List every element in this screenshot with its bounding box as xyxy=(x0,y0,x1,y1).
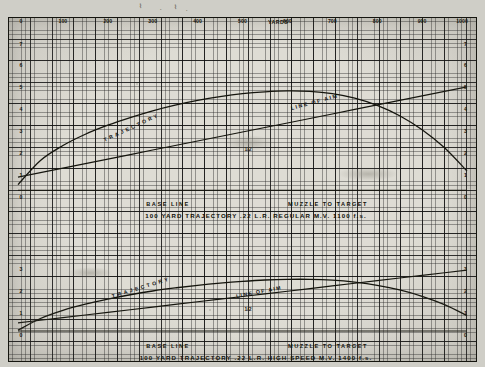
scan-speck xyxy=(136,83,138,85)
upper-chart-svg xyxy=(8,17,477,207)
scan-smudge xyxy=(223,135,275,151)
scan-artifact-mark: ⌇ xyxy=(139,2,142,9)
upper-chart-title: 100 YARD TRAJECTORY .22 L.R. REGULAR M.V… xyxy=(145,212,366,219)
upper-base-line-caption: BASE LINE xyxy=(146,201,189,207)
lower-chart-panel: TRAJECTORY LINE OF AIM 1/2 xyxy=(8,245,477,349)
scan-smudge xyxy=(338,167,398,181)
lower-muzzle-to-target-caption: MUZZLE TO TARGET xyxy=(288,343,368,349)
scan-artifact-mark: ⌇ xyxy=(174,3,177,10)
upper-chart-panel: TRAJECTORY LINE OF AIM 1/2 xyxy=(8,17,477,207)
lower-chart-title: 100 YARD TRAJECTORY .22 L.R. HIGH SPEED … xyxy=(140,354,372,361)
screenshot-root: ⌇ · ⌇ · 01002003004005006007008009001000… xyxy=(0,0,485,367)
chart-sheet: 01002003004005006007008009001000 YARDS 7… xyxy=(8,17,477,362)
scan-smudge xyxy=(68,267,113,279)
upper-line-of-aim-path xyxy=(18,87,467,177)
scan-artifact-mark: · xyxy=(186,7,188,13)
scan-speck xyxy=(209,309,211,311)
upper-muzzle-to-target-caption: MUZZLE TO TARGET xyxy=(288,201,368,207)
lower-base-line-caption: BASE LINE xyxy=(146,343,189,349)
lower-midpoint-mark: 1/2 xyxy=(245,307,252,312)
scan-artifact-mark: · xyxy=(160,6,162,12)
lower-trajectory-path xyxy=(18,279,467,330)
scan-speck xyxy=(313,222,315,224)
